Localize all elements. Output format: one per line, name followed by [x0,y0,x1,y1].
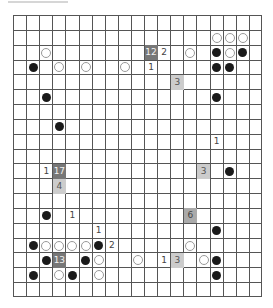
white-stone-icon [185,241,195,251]
board-cell[interactable] [118,60,131,75]
number-cell[interactable]: 1 [40,164,53,179]
board-cell[interactable] [92,253,105,268]
cell-count-label: 4 [53,179,66,194]
board-cell[interactable] [53,119,66,134]
cell-count-label: 12 [145,45,158,60]
grid-line-horizontal [14,119,261,120]
game-board[interactable]: 1231734613321111121 [13,15,262,297]
board-cell[interactable] [236,30,249,45]
board-cell[interactable] [210,253,223,268]
white-stone-icon [54,241,64,251]
highlighted-cell[interactable]: 3 [171,75,184,90]
grid-line-horizontal [14,134,261,135]
board-cell[interactable] [131,253,144,268]
board-cell[interactable] [40,208,53,223]
grid-line-horizontal [14,282,261,283]
black-stone-icon [29,271,38,280]
board-cell[interactable] [223,30,236,45]
board-cell[interactable] [223,60,236,75]
board-cell[interactable] [210,45,223,60]
highlighted-cell[interactable]: 3 [197,164,210,179]
clipped-caption [8,0,68,4]
number-cell[interactable]: 1 [158,253,171,268]
board-cell[interactable] [223,45,236,60]
black-stone-icon [212,256,221,265]
black-stone-icon [29,63,38,72]
board-cell[interactable] [197,253,210,268]
white-stone-icon [199,255,209,265]
board-cell[interactable] [40,253,53,268]
white-stone-icon [54,62,64,72]
board-cell[interactable] [92,238,105,253]
board-cell[interactable] [53,268,66,283]
board-cell[interactable] [53,60,66,75]
board-cell[interactable] [184,45,197,60]
board-cell[interactable] [210,90,223,105]
white-stone-icon [41,241,51,251]
white-stone-icon [94,255,104,265]
white-stone-icon [94,270,104,280]
black-stone-icon [94,241,103,250]
board-cell[interactable] [79,253,92,268]
number-cell[interactable]: 2 [105,238,118,253]
black-stone-icon [225,63,234,72]
white-stone-icon [54,270,64,280]
board-cell[interactable] [27,60,40,75]
cell-number: 1 [70,211,76,220]
highlighted-cell[interactable]: 3 [171,253,184,268]
cell-count-label: 3 [171,253,184,268]
black-stone-icon [212,93,221,102]
board-cell[interactable] [40,238,53,253]
board-cell[interactable] [210,268,223,283]
cell-count-label: 3 [171,75,184,90]
highlighted-cell[interactable]: 17 [53,164,66,179]
board-cell[interactable] [223,164,236,179]
highlighted-cell[interactable]: 13 [53,253,66,268]
board-cell[interactable] [92,268,105,283]
board-cell[interactable] [53,238,66,253]
white-stone-icon [67,241,77,251]
white-stone-icon [212,33,222,43]
board-cell[interactable] [79,238,92,253]
board-cell[interactable] [40,90,53,105]
number-cell[interactable]: 2 [158,45,171,60]
number-cell[interactable]: 1 [210,134,223,149]
number-cell[interactable]: 1 [145,60,158,75]
board-cell[interactable] [66,238,79,253]
board-cell[interactable] [27,268,40,283]
black-stone-icon [212,48,221,57]
board-cell[interactable] [66,268,79,283]
black-stone-icon [212,226,221,235]
white-stone-icon [81,241,91,251]
white-stone-icon [225,48,235,58]
cell-count-label: 13 [53,253,66,268]
grid-line-horizontal [14,193,261,194]
number-cell[interactable]: 1 [66,208,79,223]
cell-number: 1 [43,167,49,176]
black-stone-icon [212,63,221,72]
white-stone-icon [225,33,235,43]
black-stone-icon [238,48,247,57]
board-cell[interactable] [210,223,223,238]
white-stone-icon [185,48,195,58]
board-cell[interactable] [236,45,249,60]
highlighted-cell[interactable]: 12 [145,45,158,60]
board-cell[interactable] [79,60,92,75]
black-stone-icon [225,167,234,176]
board-cell[interactable] [210,30,223,45]
black-stone-icon [42,211,51,220]
grid-line-vertical [26,16,27,296]
cell-number: 2 [109,241,115,250]
board-cell[interactable] [27,238,40,253]
number-cell[interactable]: 1 [92,223,105,238]
board-cell[interactable] [40,45,53,60]
black-stone-icon [55,122,64,131]
board-cell[interactable] [184,238,197,253]
highlighted-cell[interactable]: 4 [53,179,66,194]
board-cell[interactable] [210,60,223,75]
grid-line-vertical [118,16,119,296]
cell-number: 2 [161,48,167,57]
white-stone-icon [41,48,51,58]
highlighted-cell[interactable]: 6 [184,208,197,223]
cell-number: 1 [161,256,167,265]
